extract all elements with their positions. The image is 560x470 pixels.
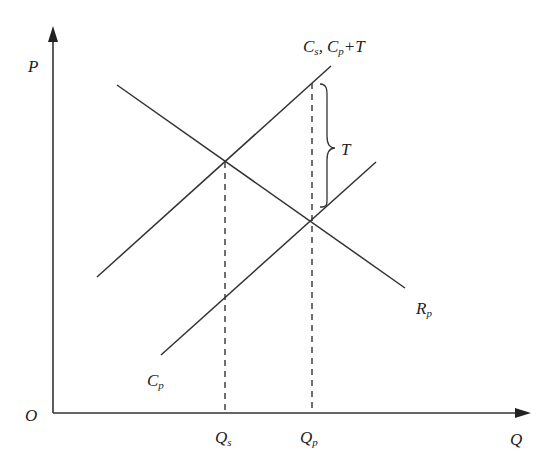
cs-line	[97, 66, 331, 277]
y-axis-arrow-icon	[48, 26, 58, 42]
rp-line-label: Rp	[415, 299, 432, 319]
cs-line-label: Cs,Cp+T	[303, 37, 366, 57]
origin-label: O	[25, 406, 37, 425]
axes	[53, 34, 522, 413]
qp-tick-label: Qp	[300, 428, 318, 448]
y-axis-label: P	[27, 57, 38, 76]
tax-incidence-diagram: P O Q Cs,Cp+T T Cp Rp Qs Qp	[0, 0, 560, 470]
tax-brace-icon	[320, 84, 335, 207]
x-axis-arrow-icon	[515, 408, 531, 418]
qs-tick-label: Qs	[215, 428, 232, 448]
rp-line	[117, 85, 405, 288]
x-axis-label: Q	[510, 430, 522, 449]
tax-label: T	[341, 140, 352, 159]
cp-line-label: Cp	[147, 371, 164, 391]
